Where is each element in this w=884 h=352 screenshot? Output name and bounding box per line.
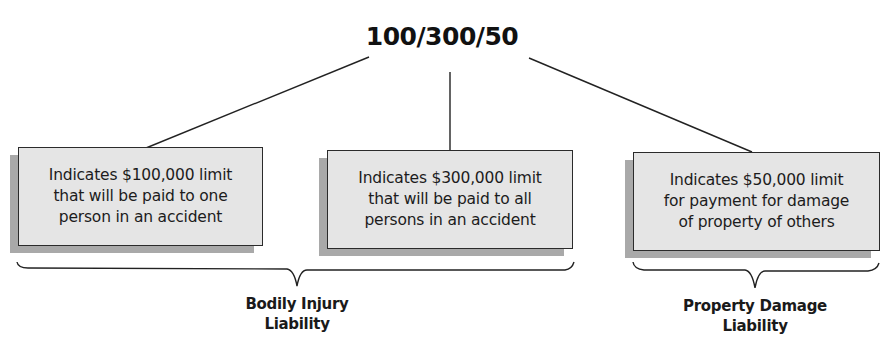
box-bodily-injury-per-accident: Indicates $300,000 limit that will be pa…: [327, 150, 573, 249]
box-bodily-injury-per-person: Indicates $100,000 limit that will be pa…: [18, 147, 263, 246]
brace-property-damage: [633, 262, 879, 288]
box-text-line: Indicates $100,000 limit: [49, 165, 232, 186]
connector-line-left: [146, 57, 369, 148]
box-text-line: that will be paid to one: [53, 186, 227, 207]
box-text-line: of property of others: [678, 212, 834, 233]
box-text-line: Indicates $300,000 limit: [358, 168, 541, 189]
brace-bodily-injury: [17, 262, 574, 286]
box-property-damage: Indicates $50,000 limit for payment for …: [633, 152, 880, 251]
label-line: Liability: [655, 316, 855, 336]
box-text-line: person in an accident: [59, 207, 222, 228]
label-property-damage-liability: Property Damage Liability: [655, 296, 855, 336]
label-bodily-injury-liability: Bodily Injury Liability: [197, 294, 397, 334]
box-text-line: persons in an accident: [364, 210, 535, 231]
box-text-line: for payment for damage: [664, 191, 849, 212]
label-line: Bodily Injury: [197, 294, 397, 314]
label-line: Liability: [197, 314, 397, 334]
box-text-line: that will be paid to all: [368, 189, 531, 210]
label-line: Property Damage: [655, 296, 855, 316]
box-text-line: Indicates $50,000 limit: [670, 170, 844, 191]
connector-line-right: [529, 58, 752, 152]
